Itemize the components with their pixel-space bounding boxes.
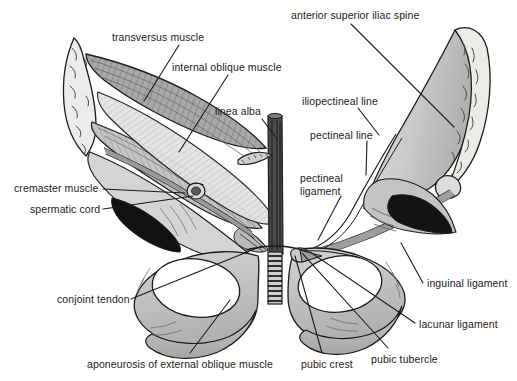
anatomy-figure: transversus muscle internal oblique musc… <box>0 0 517 381</box>
label-lacunar-ligament: lacunar ligament <box>419 318 498 331</box>
label-cremaster-muscle: cremaster muscle <box>14 182 98 195</box>
left-pubis <box>134 252 259 359</box>
leader-pectineal-ligament <box>318 196 341 240</box>
label-aponeurosis-of-external-oblique-muscle: aponeurosis of external oblique muscle <box>87 358 273 371</box>
illustration-body <box>63 24 490 358</box>
leader-inguinal-ligament <box>401 243 423 283</box>
label-linea-alba: linea alba <box>215 105 261 118</box>
label-anterior-superior-iliac-spine: anterior superior iliac spine <box>291 9 419 22</box>
label-spermatic-cord: spermatic cord <box>30 203 100 216</box>
label-pectineal-line: pectineal line <box>310 129 373 142</box>
label-pectineal-ligament: pectineal ligament <box>300 172 343 197</box>
label-internal-oblique-muscle: internal oblique muscle <box>172 61 282 74</box>
linea-alba-band <box>268 113 283 254</box>
label-pubic-crest: pubic crest <box>301 358 353 371</box>
rectus-sheath-cut-ring <box>238 152 272 164</box>
label-inguinal-ligament: inguinal ligament <box>427 277 508 290</box>
label-iliopectineal-line: iliopectineal line <box>302 95 378 108</box>
pubic-symphysis <box>268 252 282 304</box>
label-pubic-tubercle: pubic tubercle <box>371 353 438 366</box>
leader-pectineal-line <box>366 141 367 175</box>
label-conjoint-tendon: conjoint tendon <box>57 293 130 306</box>
label-transversus-muscle: transversus muscle <box>112 31 204 44</box>
right-pubis <box>288 248 405 355</box>
